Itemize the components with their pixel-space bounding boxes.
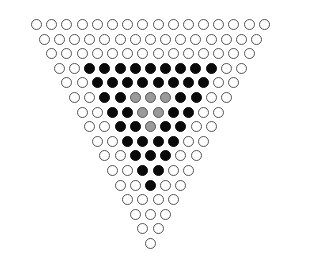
lattice-cell-filled xyxy=(175,92,186,103)
lattice-row xyxy=(84,121,221,133)
lattice-cell-empty xyxy=(160,209,171,220)
lattice-cell-empty xyxy=(107,19,118,30)
lattice-cell-empty xyxy=(160,180,171,191)
lattice-cell-empty xyxy=(69,63,80,74)
lattice-cell-filled xyxy=(168,107,179,118)
lattice-cell-empty xyxy=(107,136,118,147)
lattice-cell-empty xyxy=(213,77,224,88)
lattice-cell-empty xyxy=(115,150,126,161)
lattice-cell-empty xyxy=(31,19,42,30)
lattice-cell-filled xyxy=(145,63,156,74)
lattice-cell-filled xyxy=(175,121,186,132)
lattice-cell-empty xyxy=(54,63,65,74)
lattice-cell-empty xyxy=(46,19,57,30)
lattice-cell-empty xyxy=(137,48,148,59)
lattice-cell-empty xyxy=(190,34,201,45)
lattice-cell-filled xyxy=(160,150,171,161)
lattice-cell-filled xyxy=(190,63,201,74)
lattice-cell-empty xyxy=(213,107,224,118)
lattice-cell-empty xyxy=(244,19,255,30)
lattice-cell-filled xyxy=(122,107,133,118)
lattice-cell-empty xyxy=(153,194,164,205)
lattice-cell-half xyxy=(137,107,148,118)
lattice-cell-empty xyxy=(122,194,133,205)
lattice-cell-empty xyxy=(259,19,270,30)
lattice-cell-empty xyxy=(198,19,209,30)
lattice-row xyxy=(130,209,176,221)
lattice-row xyxy=(115,180,191,192)
lattice-row xyxy=(54,63,251,75)
lattice-cell-empty xyxy=(77,77,88,88)
lattice-cell-empty xyxy=(206,121,217,132)
lattice-cell-filled xyxy=(130,121,141,132)
lattice-cell-empty xyxy=(122,48,133,59)
lattice-cell-empty xyxy=(107,48,118,59)
lattice-cell-empty xyxy=(160,34,171,45)
lattice-cell-empty xyxy=(77,107,88,118)
lattice-cell-empty xyxy=(236,63,247,74)
lattice-cell-filled xyxy=(115,63,126,74)
lattice-cell-filled xyxy=(198,77,209,88)
lattice-cell-empty xyxy=(77,19,88,30)
lattice-cell-empty xyxy=(213,19,224,30)
lattice-cell-filled xyxy=(130,150,141,161)
lattice-cell-filled xyxy=(107,107,118,118)
lattice-cell-empty xyxy=(99,150,110,161)
lattice-cell-empty xyxy=(122,19,133,30)
lattice-cell-empty xyxy=(145,209,156,220)
lattice-cell-empty xyxy=(251,34,262,45)
lattice-cell-empty xyxy=(39,34,50,45)
lattice-cell-empty xyxy=(84,92,95,103)
lattice-cell-empty xyxy=(175,180,186,191)
lattice-cell-empty xyxy=(137,223,148,234)
lattice-cell-empty xyxy=(183,136,194,147)
lattice-cell-empty xyxy=(92,19,103,30)
lattice-cell-empty xyxy=(221,92,232,103)
lattice-cell-empty xyxy=(92,107,103,118)
lattice-cell-empty xyxy=(168,48,179,59)
lattice-cell-empty xyxy=(191,150,202,161)
lattice-cell-empty xyxy=(130,180,141,191)
lattice-cell-empty xyxy=(198,136,209,147)
lattice-cell-filled xyxy=(145,150,156,161)
lattice-row xyxy=(69,92,236,104)
lattice-row xyxy=(145,238,160,250)
lattice-cell-filled xyxy=(99,63,110,74)
lattice-cell-empty xyxy=(236,34,247,45)
lattice-cell-empty xyxy=(228,48,239,59)
lattice-cell-filled xyxy=(107,77,118,88)
lattice-cell-empty xyxy=(153,19,164,30)
lattice-row xyxy=(39,34,267,46)
lattice-row xyxy=(77,107,229,119)
lattice-cell-filled xyxy=(153,77,164,88)
lattice-cell-empty xyxy=(153,48,164,59)
lattice-cell-empty xyxy=(99,121,110,132)
lattice-cell-filled xyxy=(206,63,217,74)
lattice-cell-empty xyxy=(130,34,141,45)
lattice-cell-half xyxy=(145,92,156,103)
lattice-cell-empty xyxy=(183,48,194,59)
lattice-cell-empty xyxy=(206,92,217,103)
lattice-cell-filled xyxy=(122,77,133,88)
lattice-cell-filled xyxy=(137,165,148,176)
lattice-cell-empty xyxy=(213,48,224,59)
lattice-cell-empty xyxy=(46,48,57,59)
lattice-cell-empty xyxy=(206,34,217,45)
lattice-cell-half xyxy=(130,92,141,103)
lattice-cell-filled xyxy=(115,121,126,132)
lattice-cell-empty xyxy=(61,19,72,30)
lattice-cell-empty xyxy=(183,19,194,30)
lattice-cell-empty xyxy=(175,150,186,161)
lattice-cell-filled xyxy=(168,136,179,147)
lattice-cell-empty xyxy=(92,48,103,59)
lattice-row xyxy=(61,77,243,89)
lattice-cell-empty xyxy=(92,136,103,147)
lattice-cell-empty xyxy=(198,107,209,118)
lattice-cell-filled xyxy=(153,136,164,147)
lattice-cell-empty xyxy=(54,34,65,45)
lattice-cell-filled xyxy=(137,77,148,88)
lattice-cell-filled xyxy=(183,107,194,118)
lattice-cell-filled xyxy=(137,136,148,147)
lattice-cell-half xyxy=(145,121,156,132)
lattice-cell-empty xyxy=(221,63,232,74)
